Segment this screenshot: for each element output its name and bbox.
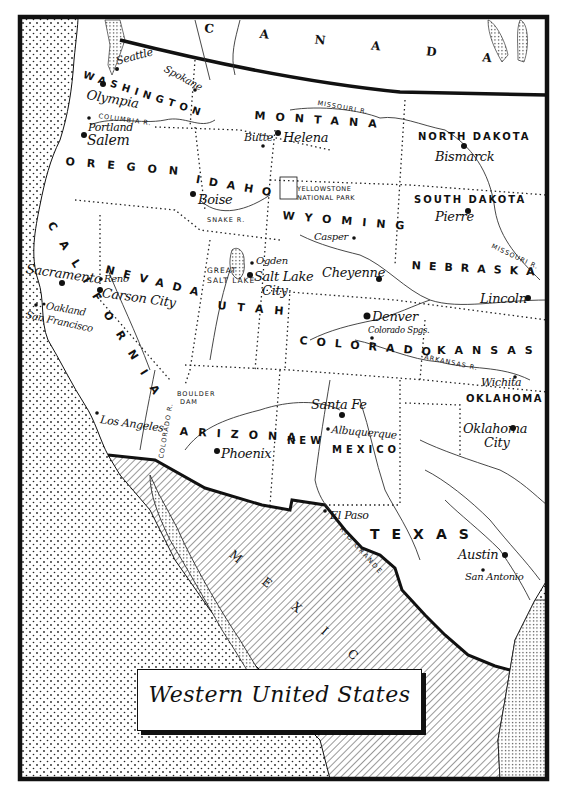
state-label-new-mexico-line2: MEXICO [332, 445, 400, 455]
city-label-pierre: Pierre [435, 210, 474, 223]
city-label-bismarck: Bismarck [435, 150, 494, 163]
city-label-salt-lake-city-line2: City [262, 284, 287, 297]
lake-label-great-salt-lake-line1: GREAT [207, 267, 237, 275]
dam-label-boulder-line1: BOULDER [177, 391, 215, 398]
city-label-denver: Denver [372, 310, 418, 323]
city-label-ogden: Ogden [256, 256, 288, 266]
city-label-salem: Salem [87, 133, 129, 147]
city-label-lincoln: Lincoln [480, 292, 527, 305]
city-label-boise: Boise [198, 193, 232, 206]
city-label-austin: Austin [458, 548, 498, 561]
park-label-yellowstone-line1: YELLOWSTONE [297, 186, 351, 193]
city-label-reno: Reno [104, 274, 129, 284]
city-label-santa-fe: Santa Fe [311, 398, 367, 411]
state-label-new-mexico-line1: NEW [287, 436, 325, 446]
lake-label-great-salt-lake-line2: SALT LAKE [207, 277, 255, 285]
city-label-colorado-springs: Colorado Spgs. [368, 326, 429, 335]
state-label-kansas: KANSAS [437, 345, 542, 356]
map-title: Western United States [138, 682, 421, 707]
city-label-butte: Butte [244, 132, 273, 143]
river-label-snake: SNAKE R. [207, 217, 245, 224]
city-label-cheyenne: Cheyenne [322, 266, 385, 279]
state-label-texas: TEXAS [370, 527, 481, 541]
city-label-san-antonio: San Antonio [465, 572, 524, 582]
dam-label-boulder-line2: DAM [180, 399, 198, 406]
state-label-oklahoma: OKLAHOMA [466, 394, 543, 404]
city-label-salt-lake-city-line1: Salt Lake [254, 270, 313, 283]
city-label-oklahoma-city-line1: Oklahoma [463, 422, 527, 435]
city-label-phoenix: Phoenix [221, 447, 271, 460]
city-label-el-paso: El Paso [330, 510, 369, 521]
city-label-wichita: Wichita [481, 377, 521, 388]
park-label-yellowstone-line2: NATIONAL PARK [297, 195, 355, 202]
city-label-casper: Casper [314, 232, 348, 242]
state-label-north-dakota: NORTH DAKOTA [418, 132, 530, 142]
state-label-south-dakota: SOUTH DAKOTA [414, 195, 526, 205]
city-label-helena: Helena [283, 131, 328, 144]
city-label-oklahoma-city-line2: City [484, 436, 509, 449]
map-title-box: Western United States [137, 669, 422, 731]
